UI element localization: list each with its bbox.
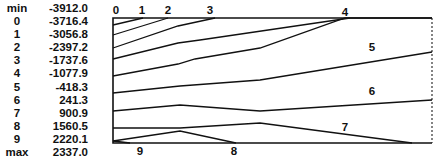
contour-label-3: 3 [207,4,213,16]
contour-label-2: 2 [165,4,171,16]
contour-line-5 [113,52,432,93]
contour-line-2 [113,18,215,48]
contour-line-8 [113,131,236,143]
contour-label-6: 6 [369,85,375,97]
contour-labels: 0123456789 [113,4,376,157]
contour-line-6 [113,100,432,111]
contour-label-9: 9 [137,145,143,157]
contour-line-7 [113,123,412,143]
contour-label-8: 8 [231,145,238,157]
contour-line-0 [113,18,143,25]
contour-plot: 0123456789 [0,0,437,164]
contour-label-5: 5 [369,41,376,53]
contour-label-0: 0 [113,4,119,16]
contour-label-1: 1 [139,4,146,16]
contour-label-7: 7 [342,121,348,133]
contour-label-4: 4 [342,6,349,18]
contour-lines [113,18,432,143]
